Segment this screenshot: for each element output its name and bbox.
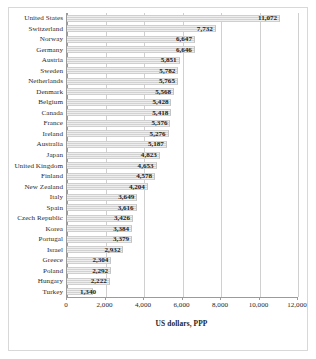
category-label: Sweden — [40, 67, 63, 75]
category-label: Greece — [43, 256, 63, 264]
bar-value-label: 5,851 — [149, 56, 177, 64]
bar-value-label: 4,578 — [124, 172, 152, 180]
category-label: Norway — [40, 35, 63, 43]
gridline — [298, 13, 299, 297]
x-tick-mark — [297, 297, 298, 300]
x-tick-label: 0 — [64, 301, 68, 310]
bar-value-label: 3,426 — [102, 214, 130, 222]
x-tick-mark — [182, 297, 183, 300]
category-label: Netherlands — [28, 77, 63, 85]
gridline — [183, 13, 184, 297]
category-label: New Zealand — [24, 183, 63, 191]
bar-value-label: 7,732 — [185, 25, 213, 33]
x-tick-mark — [105, 297, 106, 300]
category-label: Israel — [47, 246, 63, 254]
bar-chart-figure: United StatesSwitzerlandNorwayGermanyAus… — [0, 0, 316, 359]
x-tick-label: 8,000 — [212, 301, 228, 310]
bar-value-label: 5,568 — [143, 88, 171, 96]
bar-value-label: 1,340 — [68, 288, 96, 296]
category-label: Australia — [37, 140, 63, 148]
category-label: Portugal — [39, 235, 63, 243]
category-label: United Kingdom — [14, 162, 63, 170]
x-tick-label: 10,000 — [249, 301, 269, 310]
bar-value-label: 4,653 — [126, 162, 154, 170]
category-label: Austria — [42, 56, 63, 64]
bar-value-label: 5,765 — [147, 77, 175, 85]
bar-value-label: 4,823 — [129, 151, 157, 159]
category-label: Turkey — [42, 288, 63, 296]
category-label: Switzerland — [29, 25, 63, 33]
bar-value-label: 3,384 — [101, 225, 129, 233]
category-label: Denmark — [36, 88, 63, 96]
bar-value-label: 3,616 — [106, 204, 134, 212]
bar-value-label: 2,304 — [80, 256, 108, 264]
bar-value-label: 2,222 — [79, 277, 107, 285]
x-tick-mark — [66, 297, 67, 300]
category-label: United States — [24, 14, 63, 22]
value-axis: 02,0004,0006,0008,00010,00012,000 — [66, 297, 297, 313]
bar-value-label: 5,782 — [147, 67, 175, 75]
category-label: Finland — [41, 172, 63, 180]
bar-value-label: 5,187 — [136, 140, 164, 148]
category-label: France — [43, 119, 63, 127]
plot-wrapper: United StatesSwitzerlandNorwayGermanyAus… — [14, 13, 302, 313]
plot-area: 11,0727,7326,6476,6465,8515,7825,7655,56… — [66, 13, 297, 297]
bar-value-label: 5,276 — [138, 130, 166, 138]
bar-value-label: 11,072 — [249, 14, 277, 22]
bar-value-label: 3,379 — [101, 235, 129, 243]
category-label: Poland — [43, 267, 63, 275]
x-tick-label: 12,000 — [287, 301, 307, 310]
x-tick-mark — [220, 297, 221, 300]
gridline — [260, 13, 261, 297]
category-label: Spain — [47, 204, 63, 212]
category-label: Germany — [36, 46, 63, 54]
bar-value-label: 6,647 — [164, 35, 192, 43]
category-label: Belgium — [38, 98, 63, 106]
x-tick-label: 6,000 — [174, 301, 190, 310]
category-label: Italy — [50, 193, 63, 201]
category-label: Ireland — [43, 130, 63, 138]
bar-value-label: 5,376 — [139, 119, 167, 127]
bar-value-label: 4,204 — [117, 183, 145, 191]
bar-value-label: 3,649 — [106, 193, 134, 201]
x-tick-label: 4,000 — [135, 301, 151, 310]
bar-value-label: 2,932 — [92, 246, 120, 254]
gridline — [221, 13, 222, 297]
category-label: Korea — [45, 225, 63, 233]
category-label: Canada — [41, 109, 63, 117]
x-tick-mark — [143, 297, 144, 300]
bar-value-label: 5,428 — [140, 98, 168, 106]
bar-value-label: 5,418 — [140, 109, 168, 117]
bar-value-label: 6,646 — [164, 46, 192, 54]
x-axis-title: US dollars, PPP — [66, 319, 297, 328]
bar-value-label: 2,292 — [80, 267, 108, 275]
category-label: Czech Republic — [17, 214, 63, 222]
x-tick-label: 2,000 — [97, 301, 113, 310]
category-label: Japan — [47, 151, 63, 159]
category-axis: United StatesSwitzerlandNorwayGermanyAus… — [14, 13, 66, 297]
category-label: Hungary — [38, 277, 63, 285]
x-tick-mark — [259, 297, 260, 300]
